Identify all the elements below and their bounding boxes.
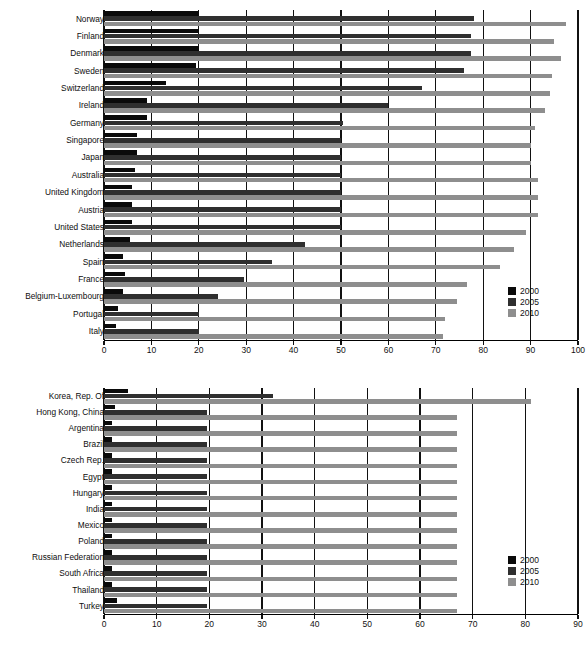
bar-2000 [104, 389, 128, 394]
bar-2005 [104, 587, 207, 592]
bar-2005 [104, 190, 341, 195]
bar-2000 [104, 534, 112, 539]
bar-2010 [104, 431, 457, 436]
bar-2005 [104, 225, 341, 230]
bar-2000 [104, 598, 117, 603]
bar-2010 [104, 447, 457, 452]
bar-2000 [104, 133, 137, 138]
bar-2005 [104, 507, 207, 512]
category-label: Singapore [0, 132, 108, 149]
legend-label-2000: 2000 [520, 556, 539, 565]
bar-2000 [104, 453, 112, 458]
legend-item-2000: 2000 [508, 287, 539, 296]
category-label: India [0, 501, 108, 517]
bar-2000 [104, 168, 135, 173]
tick-label-50: 50 [336, 346, 345, 355]
category-label: Portugal [0, 305, 108, 322]
bar-2000 [104, 437, 112, 442]
category-label: Germany [0, 114, 108, 131]
chart-page: NorwayFinlandDenmarkSwedenSwitzerlandIre… [0, 0, 588, 648]
category-label: Russian Federation [0, 549, 108, 565]
bar-2000 [104, 324, 116, 329]
category-label: Korea, Rep. Of [0, 388, 108, 404]
legend-item-2005: 2005 [508, 567, 539, 576]
category-label: South Africa [0, 566, 108, 582]
bar-2010 [104, 512, 457, 517]
category-label: Denmark [0, 45, 108, 62]
bar-2005 [104, 277, 244, 282]
bar-2005 [104, 103, 388, 108]
bar-2010 [104, 230, 526, 235]
tick-label-0: 0 [102, 620, 107, 629]
bar-2010 [104, 560, 457, 565]
top-chart: NorwayFinlandDenmarkSwedenSwitzerlandIre… [0, 10, 588, 355]
tick-label-90: 90 [573, 620, 582, 629]
category-label: Australia [0, 166, 108, 183]
bar-2010 [104, 22, 566, 27]
legend-swatch-2010-icon [508, 578, 516, 586]
category-label: Argentina [0, 420, 108, 436]
category-label: Spain [0, 253, 108, 270]
bar-2010 [104, 464, 457, 469]
category-label: Hong Kong, China [0, 404, 108, 420]
category-label: Egypt [0, 469, 108, 485]
bar-2005 [104, 555, 207, 560]
category-label: Thailand [0, 582, 108, 598]
bottom-chart: Korea, Rep. OfHong Kong, ChinaArgentinaB… [0, 388, 588, 638]
bar-2010 [104, 161, 531, 166]
bar-2005 [104, 474, 207, 479]
category-label: Japan [0, 149, 108, 166]
tick-label-60: 60 [384, 346, 393, 355]
bar-2000 [104, 469, 112, 474]
gridline-70 [472, 388, 473, 614]
bar-2010 [104, 108, 545, 113]
bar-2005 [104, 312, 199, 317]
bar-2000 [104, 550, 112, 555]
bar-2005 [104, 491, 207, 496]
bar-2005 [104, 155, 341, 160]
bar-2005 [104, 458, 207, 463]
tick-label-40: 40 [289, 346, 298, 355]
bar-2010 [104, 544, 457, 549]
bar-2010 [104, 334, 443, 339]
bar-2005 [104, 173, 341, 178]
category-label: Italy [0, 323, 108, 340]
category-label: Finland [0, 27, 108, 44]
bar-2010 [104, 317, 445, 322]
bar-2010 [104, 74, 552, 79]
category-label: Norway [0, 10, 108, 27]
bar-2000 [104, 46, 199, 51]
bar-2010 [104, 593, 457, 598]
category-label: United States [0, 218, 108, 235]
bar-2000 [104, 98, 147, 103]
tick-label-60: 60 [415, 620, 424, 629]
bar-2005 [104, 329, 199, 334]
bar-2000 [104, 272, 125, 277]
bar-2010 [104, 577, 457, 582]
tick-label-30: 30 [241, 346, 250, 355]
category-label: Switzerland [0, 79, 108, 96]
category-label: United Kingdom [0, 184, 108, 201]
category-label: France [0, 271, 108, 288]
bar-2000 [104, 220, 132, 225]
bottom-chart-plot-area: 0102030405060708090 [104, 388, 578, 614]
gridline-100 [577, 10, 578, 340]
bar-2010 [104, 178, 538, 183]
bar-2000 [104, 582, 112, 587]
bottom-chart-legend: 2000 2005 2010 [508, 556, 539, 589]
bar-2000 [104, 115, 147, 120]
bar-2000 [104, 202, 132, 207]
tick-label-80: 80 [521, 620, 530, 629]
category-label: Turkey [0, 598, 108, 614]
tick-label-70: 70 [431, 346, 440, 355]
category-label: Mexico [0, 517, 108, 533]
legend-label-2000: 2000 [520, 287, 539, 296]
bar-2005 [104, 260, 272, 265]
category-label: Ireland [0, 97, 108, 114]
bar-2005 [104, 539, 207, 544]
bar-2010 [104, 213, 538, 218]
bar-2005 [104, 442, 207, 447]
legend-swatch-2010-icon [508, 309, 516, 317]
legend-swatch-2005-icon [508, 298, 516, 306]
bar-2000 [104, 405, 115, 410]
